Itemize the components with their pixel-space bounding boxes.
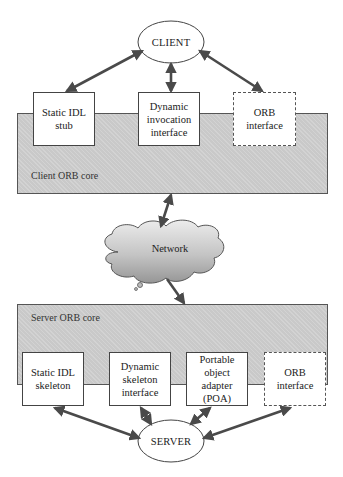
server-label: SERVER [138,431,204,451]
arrow-server-skeleton [55,408,139,438]
arrow-server-poa [191,408,210,424]
client-orb-interface-box: ORB interface [233,92,296,146]
dynamic-skeleton-interface-box: Dynamic skeleton interface [109,352,171,406]
static-idl-skeleton-box: Static IDL skeleton [22,352,84,406]
dynamic-invocation-interface-box: Dynamic invocation interface [138,92,200,146]
arrow-network-server-core [167,279,184,303]
portable-object-adapter-box: Portable object adapter (POA) [186,352,248,406]
server-orb-interface-box: ORB interface [264,352,326,406]
static-idl-stub-box: Static IDL stub [33,92,95,146]
corba-architecture-diagram: Client ORB core Server ORB core [0,0,343,477]
arrow-client-core-network [161,195,171,226]
arrow-client-orb-interface [200,51,262,91]
arrow-server-dsi [141,408,151,424]
arrow-client-stub [67,51,142,91]
network-label: Network [130,240,210,256]
arrow-server-orb-interface [204,408,290,438]
client-label: CLIENT [138,32,204,52]
